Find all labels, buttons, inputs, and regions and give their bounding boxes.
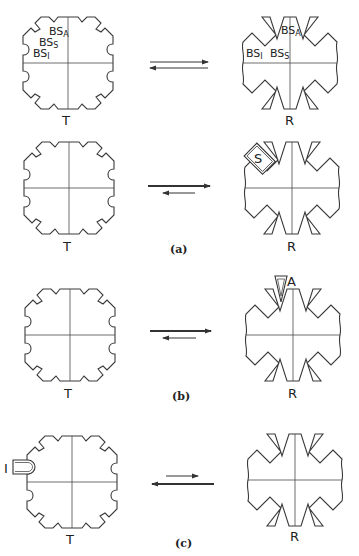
r-state-label: R (285, 113, 294, 128)
panel-label-c: (c) (175, 537, 192, 550)
row3: T (b) R A (25, 274, 341, 403)
row1: T BSA BSS BSI R BSA BSI BSS (23, 17, 338, 128)
site-bs-i-label-r: BSI (246, 47, 263, 61)
site-bs-s-label-r: BSS (270, 47, 289, 61)
activator-a-ligand (275, 276, 287, 302)
t-state-label: T (62, 239, 71, 254)
row4: T I (c) R (4, 434, 343, 550)
substrate-s-label: S (254, 151, 262, 166)
activator-a-label: A (287, 274, 296, 289)
panel-label-a: (a) (170, 243, 188, 256)
row2: T (a) R S (24, 142, 340, 256)
t-state-shape (25, 289, 115, 381)
site-bs-i-label: BSI (33, 47, 50, 61)
t-state-label: T (63, 386, 72, 401)
allosteric-equilibrium-diagram: T BSA BSS BSI R BSA BSI BSS T (a) R S T … (0, 0, 359, 556)
t-state-shape (24, 142, 114, 234)
r-state-shape (245, 289, 340, 381)
r-state-label: R (287, 239, 296, 254)
inhibitor-i-label: I (4, 461, 8, 476)
r-state-label: R (290, 529, 299, 544)
panel-label-b: (b) (172, 390, 190, 403)
site-bs-a-label-r: BSA (281, 24, 301, 38)
t-state-shape (27, 436, 117, 528)
r-state-label: R (288, 386, 297, 401)
t-state-label: T (61, 113, 70, 128)
inhibitor-i-ligand (13, 460, 35, 474)
r-state-shape (247, 434, 342, 526)
t-state-label: T (65, 532, 74, 547)
